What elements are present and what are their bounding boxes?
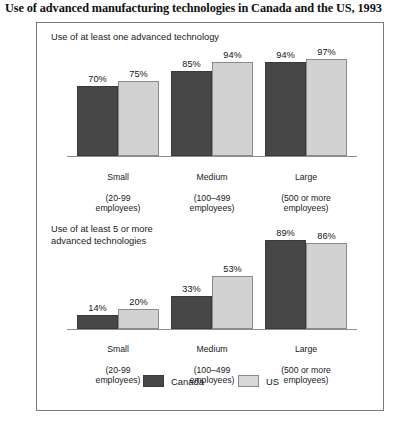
- bar-value-label: 14%: [88, 303, 106, 313]
- bar-canada-large[interactable]: 89%: [265, 240, 306, 329]
- bar-group-medium: 85% 94%: [171, 62, 253, 156]
- panel-top-heading: Use of at least one advanced technology: [51, 32, 219, 44]
- category-name: Small: [107, 172, 129, 182]
- bar-group-small: 70% 75%: [77, 81, 159, 156]
- chart-legend: Canada US: [37, 375, 385, 387]
- bar-value-label: 75%: [129, 69, 147, 79]
- legend-item-canada[interactable]: Canada: [143, 375, 204, 387]
- bar-canada-small[interactable]: 70%: [77, 86, 118, 156]
- bar-group-large: 94% 97%: [265, 59, 347, 156]
- category-name: Large: [295, 344, 317, 354]
- bar-us-large[interactable]: 86%: [306, 243, 347, 329]
- bar-canada-small[interactable]: 14%: [77, 315, 118, 329]
- bar-value-label: 85%: [182, 59, 200, 69]
- category-label-medium: Medium (100–499 employees): [167, 161, 257, 214]
- panel-bottom: Use of at least 5 or more advanced techn…: [37, 211, 385, 376]
- category-name: Small: [107, 344, 129, 354]
- panel-top-categories: Small (20-99 employees) Medium (100–499 …: [67, 161, 357, 201]
- bar-value-label: 70%: [88, 74, 106, 84]
- bar-value-label: 53%: [223, 264, 241, 274]
- legend-label-canada: Canada: [171, 376, 204, 387]
- bar-us-medium[interactable]: 94%: [212, 62, 253, 156]
- bar-value-label: 94%: [223, 50, 241, 60]
- legend-swatch-canada-icon: [143, 375, 164, 387]
- bar-value-label: 86%: [317, 231, 335, 241]
- panel-bottom-categories: Small (20-99 employees) Medium (100–499 …: [67, 333, 357, 373]
- bar-us-small[interactable]: 75%: [118, 81, 159, 156]
- category-label-small: Small (20-99 employees): [73, 161, 163, 214]
- bar-us-large[interactable]: 97%: [306, 59, 347, 156]
- bar-group-medium: 33% 53%: [171, 276, 253, 329]
- bar-value-label: 33%: [182, 284, 200, 294]
- bar-canada-large[interactable]: 94%: [265, 62, 306, 156]
- legend-item-us[interactable]: US: [238, 375, 279, 387]
- category-name: Large: [295, 172, 317, 182]
- bar-us-medium[interactable]: 53%: [212, 276, 253, 329]
- legend-swatch-us-icon: [238, 375, 259, 387]
- bar-value-label: 89%: [276, 228, 294, 238]
- panel-top-baseline: [67, 156, 357, 157]
- category-name: Medium: [197, 172, 228, 182]
- bar-value-label: 20%: [129, 297, 147, 307]
- panel-top-plot: 70% 75% 85% 94% 94% 97%: [67, 47, 357, 157]
- chart-frame: Use of at least one advanced technology …: [36, 22, 384, 411]
- category-name: Medium: [197, 344, 228, 354]
- bar-us-small[interactable]: 20%: [118, 309, 159, 329]
- panel-bottom-plot: 14% 20% 33% 53% 89% 86%: [67, 220, 357, 330]
- bar-value-label: 94%: [276, 50, 294, 60]
- bar-group-small: 14% 20%: [77, 309, 159, 329]
- bar-group-large: 89% 86%: [265, 240, 347, 329]
- panel-bottom-baseline: [67, 329, 357, 330]
- legend-label-us: US: [266, 376, 279, 387]
- bar-canada-medium[interactable]: 33%: [171, 296, 212, 329]
- page-title: Use of advanced manufacturing technologi…: [5, 1, 415, 16]
- panel-top: Use of at least one advanced technology …: [37, 23, 385, 208]
- category-label-large: Large (500 or more employees): [261, 161, 351, 214]
- bar-value-label: 97%: [317, 47, 335, 57]
- bar-canada-medium[interactable]: 85%: [171, 71, 212, 156]
